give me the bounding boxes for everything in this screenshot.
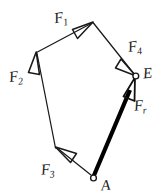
vector-fr bbox=[94, 78, 136, 177]
label-point-e: E bbox=[142, 66, 153, 82]
label-f3: F3 bbox=[40, 160, 56, 177]
label-f1: F1 bbox=[53, 8, 70, 26]
label-f2: F2 bbox=[8, 67, 24, 85]
point-marker-e bbox=[133, 73, 139, 79]
point-marker-a bbox=[91, 175, 97, 181]
vector-f3-shaft bbox=[57, 148, 94, 178]
vector-f1-arrowhead bbox=[73, 22, 94, 39]
label-fr: Fr bbox=[133, 96, 148, 113]
label-f4-subscript: 4 bbox=[136, 45, 143, 57]
label-point-a: A bbox=[100, 178, 111, 194]
vector-f3 bbox=[56, 147, 94, 177]
label-f3-subscript: 3 bbox=[49, 168, 55, 179]
vector-f2-shaft bbox=[37, 54, 56, 149]
label-fr-subscript: r bbox=[142, 104, 147, 115]
vector-fr-shaft bbox=[94, 90, 131, 177]
label-f2-subscript: 2 bbox=[17, 75, 23, 87]
label-f4: F4 bbox=[127, 37, 144, 55]
vector-f4-arrowhead bbox=[116, 59, 136, 76]
vector-f2 bbox=[29, 52, 56, 148]
force-polygon-figure: F1 F2 F3 F4 Fr A E bbox=[0, 0, 162, 195]
label-f1-subscript: 1 bbox=[62, 16, 69, 28]
